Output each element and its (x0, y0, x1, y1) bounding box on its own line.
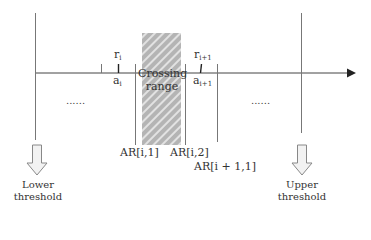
ellipsis-right: ...... (251, 96, 270, 106)
label-a-i1-base: a (193, 74, 200, 87)
label-r-i: ri (114, 49, 122, 60)
lower-threshold-label: Lower threshold (12, 180, 64, 202)
label-ar-i1-1: AR[i + 1,1] (194, 161, 256, 172)
label-a-i-sub: i (120, 80, 122, 88)
upper-threshold-label: Upper threshold (276, 180, 328, 202)
tick-r-i1 (201, 64, 202, 73)
label-ar-i-2: AR[i,2] (170, 147, 209, 158)
axis-arrowhead-icon (347, 69, 356, 78)
label-a-i: ai (113, 75, 122, 86)
crossing-range-line2: range (138, 80, 186, 93)
label-a-i1-sub: i+1 (200, 80, 213, 88)
label-r-i-sub: i (119, 54, 121, 62)
label-a-i-base: a (113, 74, 120, 87)
label-r-i1-sub: i+1 (199, 54, 212, 62)
lower-threshold-line2: threshold (12, 192, 64, 202)
upper-threshold-arrow-icon (292, 145, 312, 175)
upper-threshold-line2: threshold (276, 192, 328, 202)
ellipsis-left: ...... (66, 96, 85, 106)
crossing-range-line1: Crossing (138, 67, 186, 80)
label-r-i1: ri+1 (194, 49, 212, 60)
crossing-range-label: Crossing range (138, 67, 186, 93)
label-a-i1: ai+1 (193, 75, 212, 86)
lower-threshold-line1: Lower (12, 180, 64, 190)
upper-threshold-line1: Upper (276, 180, 328, 190)
label-ar-i-1: AR[i,1] (120, 147, 159, 158)
lower-threshold-arrow-icon (27, 145, 47, 175)
